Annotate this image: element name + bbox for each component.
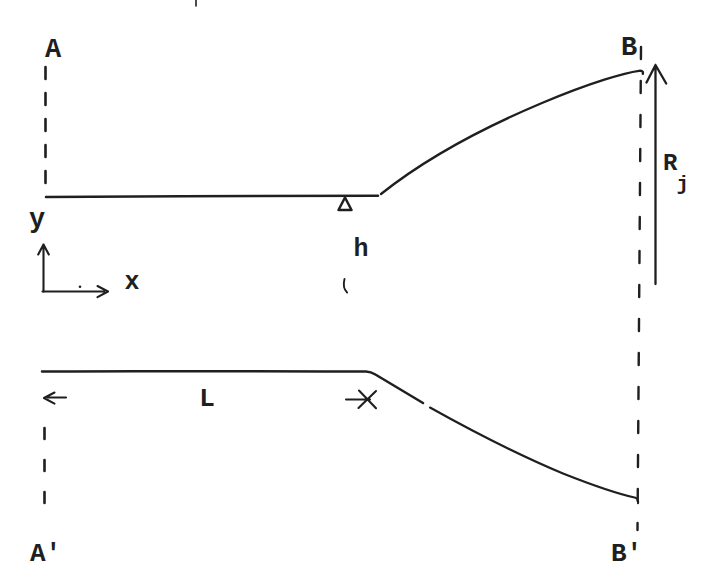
axis-speck-dot — [79, 286, 82, 289]
throat-marker: h — [339, 198, 369, 293]
figure-page: A A' B B' y x — [0, 0, 723, 581]
section-a: A A' — [30, 35, 62, 569]
lower-boundary — [42, 371, 638, 503]
label-x-axis: x — [124, 268, 139, 297]
triangle-marker-icon — [339, 198, 352, 211]
label-y-axis: y — [29, 205, 45, 235]
upper-wall-line — [46, 196, 378, 197]
label-b-prime: B' — [611, 539, 642, 569]
l-arrow-left — [44, 393, 66, 404]
upper-jet-curve — [381, 71, 643, 194]
coordinate-axes: y x — [29, 205, 140, 297]
x-axis-arrow — [43, 286, 109, 297]
label-r-subscript: j — [677, 173, 689, 196]
y-axis-arrow — [38, 245, 49, 292]
label-a-prime: A' — [30, 539, 61, 569]
label-b: B — [621, 33, 637, 63]
section-b: B B' — [611, 33, 642, 569]
label-h: h — [353, 235, 368, 264]
figure-canvas: A A' B B' y x — [0, 0, 723, 581]
jet-radius-dimension: R j — [647, 65, 689, 284]
l-arrow-right — [346, 391, 376, 409]
lower-jet-curve — [430, 408, 638, 504]
h-tick-mark — [344, 279, 347, 293]
label-a: A — [45, 35, 62, 65]
label-l: L — [199, 384, 215, 414]
station-line-b-dashed — [638, 47, 642, 530]
upper-boundary — [46, 71, 643, 197]
length-dimension: L — [44, 384, 376, 414]
